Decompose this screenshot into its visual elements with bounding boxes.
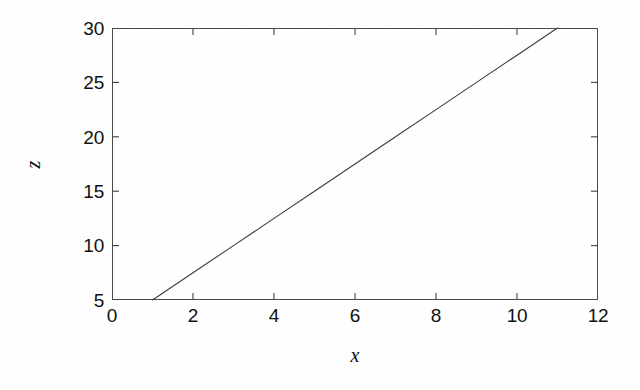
chart-figure: 30 25 20 15 10 5 0 2 4 6 8 10 12 x z — [0, 0, 640, 390]
x-tick-label: 8 — [431, 306, 441, 325]
x-axis-tick-labels: 0 2 4 6 8 10 12 — [0, 306, 640, 336]
y-tick-label: 30 — [83, 19, 104, 38]
x-tick-label: 10 — [507, 306, 528, 325]
x-axis-label: x — [351, 344, 360, 367]
x-tick-label: 12 — [588, 306, 609, 325]
x-tick-label: 0 — [107, 306, 117, 325]
x-tick-label: 6 — [350, 306, 360, 325]
y-tick-label: 20 — [83, 128, 104, 147]
y-axis-label: z — [22, 161, 45, 169]
plot-area — [112, 28, 598, 300]
y-tick-label: 25 — [83, 73, 104, 92]
x-tick-label: 2 — [188, 306, 198, 325]
x-tick-label: 4 — [269, 306, 279, 325]
y-tick-label: 15 — [83, 182, 104, 201]
y-tick-label: 10 — [83, 236, 104, 255]
